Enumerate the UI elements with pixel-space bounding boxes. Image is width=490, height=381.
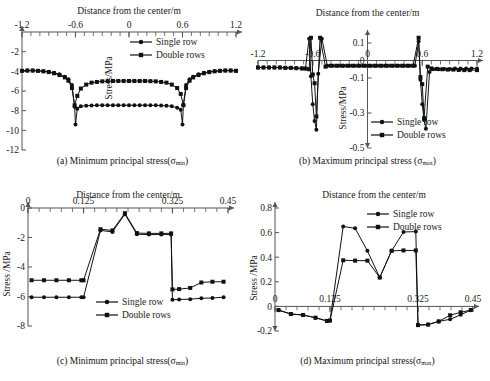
panel-a-marker-square bbox=[223, 69, 227, 73]
panel-d-series-line-0 bbox=[279, 226, 471, 325]
panel-a-y-tick-label: -2 bbox=[11, 47, 19, 57]
panel-b-marker-square bbox=[468, 68, 472, 72]
caption-a: (a) Minimum principal stress(σmin) bbox=[0, 156, 245, 166]
panel-b-y-tick-label: -0.3 bbox=[349, 108, 364, 118]
panel-c-marker-square bbox=[210, 280, 214, 284]
panel-d-marker-square bbox=[414, 248, 418, 252]
panel-a-marker-circle bbox=[179, 108, 183, 112]
panel-a-marker-square bbox=[122, 79, 126, 83]
panel-a-y-tick-label: -12 bbox=[6, 145, 19, 155]
panel-a-marker-square bbox=[202, 71, 206, 75]
panel-a-marker-square bbox=[52, 71, 56, 75]
panel-c-marker-square bbox=[135, 231, 139, 235]
panel-c-marker-square bbox=[170, 287, 174, 291]
panel-b-marker-square bbox=[451, 68, 455, 72]
panel-a-marker-circle bbox=[175, 106, 179, 110]
panel-a-marker-square bbox=[218, 69, 222, 73]
panel-d-y-tick-label: 0 bbox=[267, 302, 272, 312]
panel-b-marker-square bbox=[356, 64, 360, 68]
panel-b-marker-square bbox=[426, 65, 430, 69]
panel-c-marker-circle bbox=[210, 296, 214, 300]
panel-b-marker-square bbox=[324, 65, 328, 69]
panel-a-series-line-1 bbox=[22, 71, 236, 106]
panel-b-marker-square bbox=[283, 66, 287, 70]
panel-d-x-tick-label: 0.45 bbox=[465, 294, 482, 304]
panel-a-marker-square bbox=[75, 94, 79, 98]
panel-a-marker-square bbox=[63, 75, 67, 79]
caption-c: (c) Minimum principal stress(σmin) bbox=[0, 356, 245, 366]
panel-c-marker-square bbox=[98, 227, 102, 231]
panel-b-marker-square bbox=[345, 64, 349, 68]
caption-d-text: (d) Maximum principal stress(σ bbox=[300, 356, 421, 366]
panel-a-marker-square bbox=[188, 79, 192, 83]
panel-b-marker-circle bbox=[311, 102, 315, 106]
panel-a-marker-square bbox=[90, 81, 94, 85]
panel-a-x-tick-label: -1.2 bbox=[14, 20, 29, 30]
panel-a-marker-circle bbox=[143, 103, 147, 107]
panel-b-y-axis-label: Stress/MPa bbox=[338, 86, 348, 130]
panel-c-marker-square bbox=[82, 278, 86, 282]
panel-b-x-tick-label: 0.6 bbox=[416, 49, 428, 59]
panel-c-marker-square bbox=[159, 231, 163, 235]
panel-d-marker-square bbox=[469, 308, 473, 312]
panel-d-y-tick-label: 0.6 bbox=[260, 228, 272, 238]
panel-d-legend-marker-square bbox=[376, 225, 380, 229]
panel-b-x-axis-arrow bbox=[478, 58, 483, 63]
panel-d-marker-circle bbox=[448, 317, 452, 321]
panel-a-marker-circle bbox=[75, 107, 79, 111]
panel-a-marker-circle bbox=[181, 122, 185, 126]
panel-d-x-tick-label: 0 bbox=[273, 294, 278, 304]
panel-a-y-tick-label: -8 bbox=[11, 106, 19, 116]
panel-a-marker-square bbox=[229, 69, 233, 73]
panel-a-x-axis-arrow bbox=[237, 29, 242, 34]
panel-d-y-tick-label: 0.8 bbox=[260, 203, 272, 213]
panel-a-marker-square bbox=[213, 69, 217, 73]
panel-c-x-tick-label: 0 bbox=[26, 196, 31, 206]
panel-a-marker-square bbox=[127, 79, 131, 83]
panel-d-y-tick-label: 0.4 bbox=[260, 253, 272, 263]
panel-c-marker-circle bbox=[222, 295, 226, 299]
panel-b-marker-square bbox=[272, 66, 276, 70]
panel-b-marker-square bbox=[314, 115, 318, 119]
panel-d-marker-square bbox=[426, 323, 430, 327]
panel-b-legend-marker-circle bbox=[380, 120, 384, 124]
caption-d-subscript: max bbox=[421, 360, 431, 366]
panel-b-legend-label-0: Single row bbox=[397, 117, 439, 127]
panel-a-y-tick-label: -6 bbox=[11, 86, 19, 96]
panel-d-marker-square bbox=[459, 310, 463, 314]
panel-b-marker-square bbox=[475, 68, 479, 72]
panel-b-marker-square bbox=[417, 36, 421, 40]
panel-b-y-tick-label: -0.5 bbox=[349, 143, 364, 153]
panel-a-marker-square bbox=[143, 79, 147, 83]
panel-d-marker-square bbox=[448, 313, 452, 317]
panel-b-legend-marker-square bbox=[380, 133, 384, 137]
panel-d-x-tick-label: 0.325 bbox=[407, 294, 429, 304]
panel-a-marker-circle bbox=[164, 104, 168, 108]
panel-a-chart-title: Distance from the center/m bbox=[77, 6, 181, 16]
panel-a-marker-square bbox=[197, 73, 201, 77]
caption-a-text: (a) Minimum principal stress(σ bbox=[57, 156, 176, 166]
panel-a-marker-square bbox=[25, 69, 29, 73]
panel-a-marker-square bbox=[57, 73, 61, 77]
panel-d-plot: Distance from the center/m00.1250.3250.4… bbox=[245, 186, 490, 351]
panel-d-marker-square bbox=[401, 248, 405, 252]
caption-b: (b) Maximum principal stress (σmax) bbox=[245, 156, 490, 166]
panel-a-marker-square bbox=[70, 86, 74, 90]
panel-a-marker-square bbox=[95, 80, 99, 84]
panel-a-x-tick-label: 0 bbox=[127, 20, 132, 30]
panel-c-marker-circle bbox=[82, 295, 86, 299]
panel-a-marker-square bbox=[47, 70, 51, 74]
panel-a-legend-marker-circle bbox=[139, 40, 143, 44]
panel-c-plot: Distance from the center/m00.1250.3250.4… bbox=[0, 186, 245, 351]
panel-a-marker-circle bbox=[100, 103, 104, 107]
panel-a-y-tick-label: -10 bbox=[6, 126, 19, 136]
panel-c-y-tick-label: -2 bbox=[17, 233, 25, 243]
panel-a-marker-square bbox=[191, 75, 195, 79]
panel-b-marker-square bbox=[329, 64, 333, 68]
caption-c-text: (c) Minimum principal stress(σ bbox=[57, 356, 176, 366]
panel-c-marker-square bbox=[147, 231, 151, 235]
panel-c-marker-square bbox=[177, 287, 181, 291]
panel-c-legend-label-1: Double rows bbox=[122, 310, 171, 320]
panel-d-marker-circle bbox=[341, 224, 345, 228]
panel-b-marker-square bbox=[334, 64, 338, 68]
